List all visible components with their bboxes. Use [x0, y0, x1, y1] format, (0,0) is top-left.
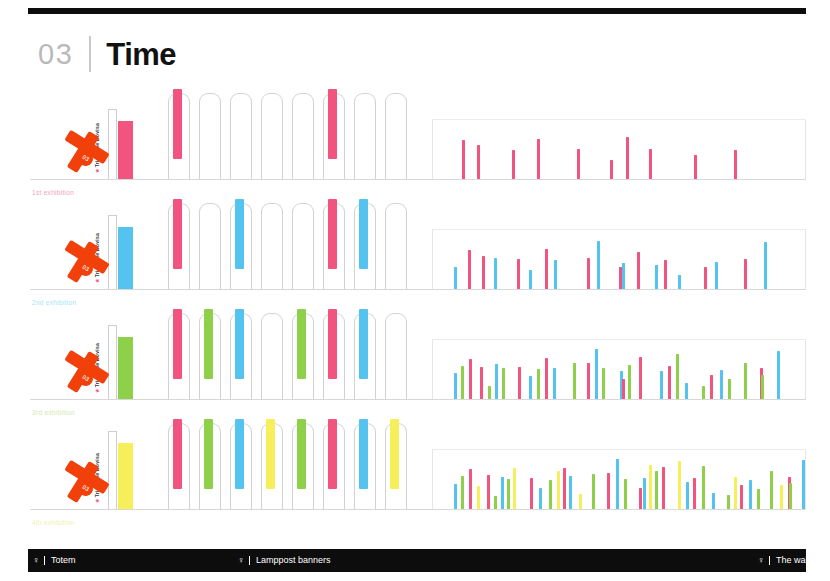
lamppost-banner — [359, 419, 368, 489]
lamppost-pole — [385, 313, 407, 399]
exhibition-row-label: 4th exhibition — [32, 519, 75, 526]
wall-bar — [454, 267, 457, 289]
wall-bar — [749, 480, 752, 509]
wall-bar — [554, 260, 557, 289]
lamppost — [261, 307, 287, 399]
wall-bar — [602, 368, 605, 399]
lamppost — [199, 87, 225, 179]
wall-bar — [587, 363, 590, 399]
wall-bar — [643, 478, 646, 509]
lamppost-banner — [328, 419, 337, 489]
legend-label: Lamppost banners — [249, 556, 331, 565]
wall-bar — [660, 371, 663, 399]
exhibition-row: 2nd exhibition★ Triennale Bovisa03 — [0, 198, 830, 308]
lamppost-pole — [292, 203, 314, 289]
wall-bar — [655, 265, 658, 289]
totem-icon: ♀ — [28, 556, 44, 565]
lamppost — [354, 87, 380, 179]
wall-group — [432, 197, 806, 289]
lamppost — [168, 197, 194, 289]
wall-bar — [789, 483, 792, 509]
lamppost — [385, 87, 411, 179]
wall-bar — [537, 369, 540, 399]
lamppost — [261, 197, 287, 289]
lamppost — [168, 87, 194, 179]
wall-bar — [720, 370, 723, 399]
exhibition-row-label: 3rd exhibition — [32, 409, 75, 416]
wall-bar — [477, 145, 480, 179]
wall-bar — [529, 376, 532, 399]
lamppost-pole — [261, 203, 283, 289]
wall-bar — [549, 480, 552, 509]
lamppost — [230, 197, 256, 289]
lamppost-pole — [354, 93, 376, 179]
wall-bar — [461, 476, 464, 509]
lamppost — [323, 307, 349, 399]
wall-bar — [518, 367, 521, 399]
wall-bar — [693, 478, 696, 509]
wall-bar — [569, 476, 572, 509]
wall-group — [432, 87, 806, 179]
wall-bar — [727, 495, 730, 509]
wall-bar — [610, 160, 613, 179]
wall-bar — [639, 357, 642, 399]
wall-bar — [802, 460, 805, 509]
lamppost — [230, 417, 256, 509]
legend-item-lamppost-banners[interactable]: ♀Lamppost banners — [233, 549, 753, 572]
wall-bar — [616, 459, 619, 509]
wall-bar — [502, 368, 505, 399]
wall-bar — [770, 471, 773, 509]
lamppost-pole — [292, 93, 314, 179]
wall-bar — [529, 270, 532, 289]
lamppost — [261, 417, 287, 509]
wall-bar — [628, 365, 631, 399]
page-header: 03 Time — [38, 32, 176, 76]
wall-bar — [626, 137, 629, 179]
lamppost — [199, 307, 225, 399]
chart-area: 1st exhibition★ Triennale Bovisa032nd ex… — [0, 88, 830, 540]
wall-bar — [639, 488, 642, 509]
lamppost — [292, 417, 318, 509]
lamppost — [354, 307, 380, 399]
totem-group: ★ Triennale Bovisa03 — [60, 307, 165, 399]
wall-bar — [469, 469, 472, 509]
section-number: 03 — [38, 40, 73, 69]
lamppost-banner — [297, 309, 306, 379]
legend-item-totem[interactable]: ♀Totem — [28, 549, 233, 572]
wall-bar — [662, 467, 665, 509]
lamppost — [354, 417, 380, 509]
wall-bar — [468, 250, 471, 289]
totem-group: ★ Triennale Bovisa03 — [60, 87, 165, 179]
lamppost-banner — [266, 419, 275, 489]
wall-bar — [622, 379, 625, 399]
wall-bar — [495, 364, 498, 399]
wall-bar — [649, 149, 652, 179]
lamppost-icon: ♀ — [233, 556, 249, 565]
wall-bar — [563, 468, 566, 509]
lamppost-banner — [359, 199, 368, 269]
totem-sign-icon: 03 — [60, 347, 116, 399]
lamppost-group — [168, 87, 416, 179]
exhibition-row-label: 1st exhibition — [32, 189, 74, 196]
top-rule — [28, 8, 806, 14]
lamppost-banner — [235, 309, 244, 379]
lamppost-banner — [235, 419, 244, 489]
lamppost-banner — [204, 419, 213, 489]
lamppost-banner — [173, 89, 182, 159]
wall-bar — [494, 496, 497, 509]
lamppost-banner — [390, 419, 399, 489]
wall-bar — [513, 468, 516, 509]
wall-bar — [655, 471, 658, 509]
wall-bar — [777, 351, 780, 399]
wall-bar — [740, 485, 743, 509]
lamppost-banner — [173, 309, 182, 379]
wall-bar — [624, 479, 627, 509]
wall-bar — [487, 475, 490, 509]
wall-frame — [432, 119, 806, 179]
wall-bar — [530, 478, 533, 509]
lamppost-group — [168, 197, 416, 289]
lamppost — [292, 197, 318, 289]
wall-bar — [587, 258, 590, 289]
legend-item-the-wall[interactable]: ♀The wall — [753, 549, 810, 572]
lamppost-banner — [173, 199, 182, 269]
